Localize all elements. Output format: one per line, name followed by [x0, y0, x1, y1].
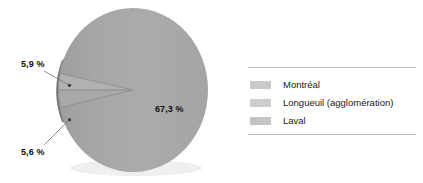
- legend-swatch-icon-montreal: [250, 81, 271, 89]
- legend-swatch-icon-laval: [250, 117, 271, 125]
- pie-value-label-montreal: 67,3 %: [155, 104, 184, 114]
- legend-item-laval[interactable]: Laval: [250, 112, 416, 129]
- pie-value-label-longueuil: 5,9 %: [21, 59, 45, 69]
- legend-rule-top: [248, 67, 416, 68]
- legend-item-longueuil[interactable]: Longueuil (agglomération): [250, 94, 416, 111]
- leader-dot-lower: [68, 118, 71, 121]
- legend-label-montreal: Montréal: [283, 79, 320, 90]
- pie-value-label-laval: 5,6 %: [21, 147, 45, 157]
- legend-swatch-icon-longueuil: [250, 99, 271, 107]
- leader-dot-upper: [68, 84, 71, 87]
- legend-items: Montréal Longueuil (agglomération) Laval: [250, 76, 416, 130]
- legend-label-longueuil: Longueuil (agglomération): [283, 97, 393, 108]
- legend-label-laval: Laval: [283, 115, 306, 126]
- pie-chart-figure: 5,9 % 5,6 % 67,3 % Montréal Longueuil (a…: [0, 0, 423, 183]
- pie-chart-graphic: 5,9 % 5,6 % 67,3 %: [0, 0, 240, 183]
- legend-item-montreal[interactable]: Montréal: [250, 76, 416, 93]
- legend-rule-bottom: [248, 134, 416, 135]
- leader-line-lower: [44, 120, 69, 145]
- chart-legend: Montréal Longueuil (agglomération) Laval: [248, 64, 416, 138]
